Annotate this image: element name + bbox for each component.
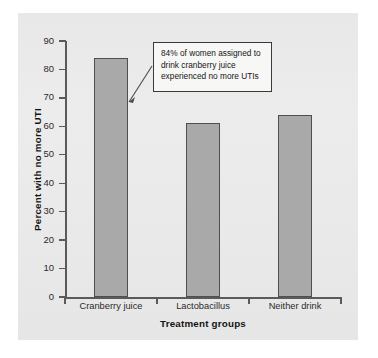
y-tick-label: 60	[28, 120, 54, 131]
y-tick-label: 70	[28, 91, 54, 102]
y-tick-label: 80	[28, 63, 54, 74]
y-tick	[59, 69, 66, 70]
annotation-line-3: experienced no more UTIs	[161, 71, 265, 83]
figure-root: Percent with no more UTI 010203040506070…	[0, 0, 378, 358]
y-tick	[59, 126, 66, 127]
x-axis-title: Treatment groups	[65, 318, 341, 329]
y-tick	[59, 154, 66, 155]
y-tick-label: 40	[28, 177, 54, 188]
annotation-line-2: drink cranberry juice	[161, 60, 265, 72]
y-tick	[59, 40, 66, 41]
category-label-lactobacillus: Lactobacillus	[157, 301, 249, 311]
y-tick-label: 30	[28, 205, 54, 216]
y-tick-label: 0	[28, 291, 54, 302]
annotation-callout: 84% of women assigned to drink cranberry…	[153, 42, 272, 92]
bar-neither-drink	[278, 115, 312, 297]
y-axis-line	[65, 41, 67, 298]
y-tick	[59, 97, 66, 98]
y-tick	[59, 239, 66, 240]
category-label-cranberry-juice: Cranberry juice	[65, 301, 157, 311]
y-tick	[59, 211, 66, 212]
category-label-neither-drink: Neither drink	[249, 301, 341, 311]
y-tick	[59, 183, 66, 184]
y-tick	[59, 268, 66, 269]
y-tick-label: 20	[28, 234, 54, 245]
y-tick-label: 10	[28, 262, 54, 273]
plot-area: Percent with no more UTI 010203040506070…	[0, 0, 378, 358]
bar-cranberry-juice	[94, 58, 128, 297]
bar-lactobacillus	[186, 123, 220, 297]
x-axis-line	[65, 297, 341, 299]
annotation-line-1: 84% of women assigned to	[161, 48, 265, 60]
y-tick-label: 90	[28, 35, 54, 46]
y-tick-label: 50	[28, 148, 54, 159]
